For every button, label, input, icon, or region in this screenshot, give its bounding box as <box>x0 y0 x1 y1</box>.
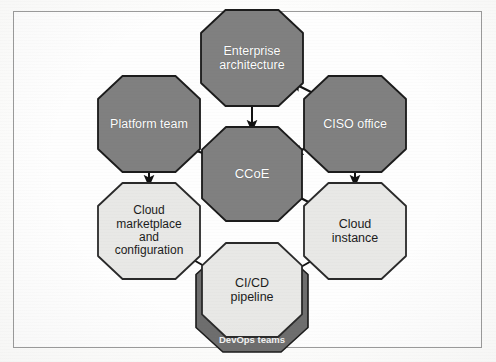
node-layer <box>98 10 406 337</box>
node-cicd-pipeline[interactable] <box>202 243 302 337</box>
node-ciso-office[interactable] <box>304 76 406 172</box>
node-cloud-instance[interactable] <box>304 183 406 279</box>
devops-teams-label: DevOps teams <box>219 334 285 345</box>
node-cloud-marketplace-and-configuration[interactable] <box>98 183 200 279</box>
devops-band-text-layer: DevOps teams <box>219 334 285 345</box>
node-enterprise-architecture[interactable] <box>201 10 303 106</box>
node-platform-team[interactable] <box>98 76 200 172</box>
diagram-canvas: DevOps teams Enterprise architecturePlat… <box>0 0 496 362</box>
node-ccoe[interactable] <box>202 127 302 221</box>
diagram-graphics: DevOps teams <box>0 0 496 362</box>
